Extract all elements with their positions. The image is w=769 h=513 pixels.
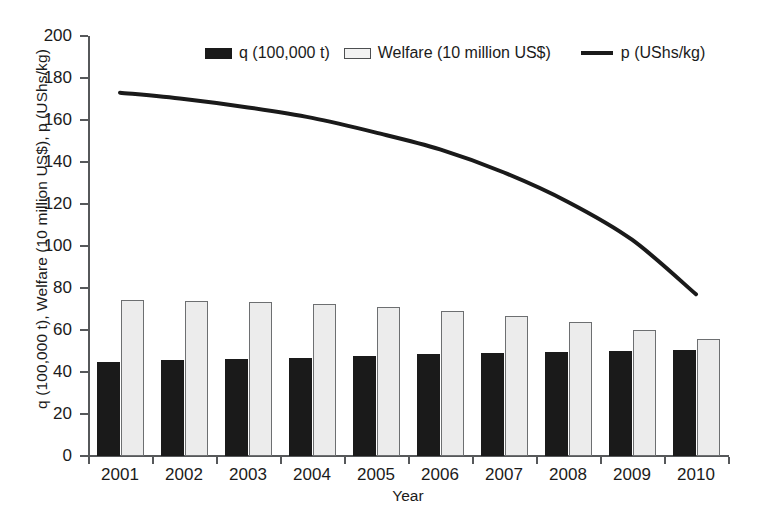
x-axis-tick (472, 457, 474, 464)
y-axis-tick-label: 160 (12, 111, 72, 128)
legend-label-welfare: Welfare (10 million US$) (378, 44, 551, 62)
x-axis-title: Year (88, 487, 728, 505)
x-axis-tick-label: 2004 (280, 466, 344, 483)
y-axis-tick-label: 40 (12, 363, 72, 380)
price-line-path (120, 93, 696, 295)
y-axis-tick-label-wrap: 160 (8, 111, 72, 129)
y-axis-tick-label: 140 (12, 153, 72, 170)
legend-item-welfare: Welfare (10 million US$) (344, 44, 551, 62)
y-axis-tick (80, 119, 88, 121)
y-axis-tick-label-wrap: 0 (8, 447, 72, 465)
x-axis-tick (280, 457, 282, 464)
x-axis-tick-label: 2001 (88, 466, 152, 483)
x-axis-tick-label: 2005 (344, 466, 408, 483)
x-axis-tick (344, 457, 346, 464)
x-axis-tick-label: 2002 (152, 466, 216, 483)
x-axis-tick-label: 2008 (536, 466, 600, 483)
y-axis-tick (80, 203, 88, 205)
x-axis-tick-label: 2010 (664, 466, 728, 483)
legend-label-q: q (100,000 t) (239, 44, 330, 62)
y-axis-tick-label: 20 (12, 405, 72, 422)
y-axis-tick-label: 180 (12, 69, 72, 86)
x-axis-tick (536, 457, 538, 464)
x-axis-tick-label: 2009 (600, 466, 664, 483)
plot-area (88, 36, 728, 456)
chart-figure: q (100,000 t), Welfare (10 million US$),… (0, 0, 769, 513)
y-axis-tick-label-wrap: 20 (8, 405, 72, 423)
x-axis-tick (728, 457, 730, 464)
x-axis-tick (664, 457, 666, 464)
legend-item-q: q (100,000 t) (205, 44, 330, 62)
y-axis-tick (80, 455, 88, 457)
y-axis-tick-label: 100 (12, 237, 72, 254)
y-axis-tick-label-wrap: 120 (8, 195, 72, 213)
y-axis-tick (80, 77, 88, 79)
chart-legend: q (100,000 t) Welfare (10 million US$) p… (205, 44, 705, 62)
x-axis-tick-label: 2006 (408, 466, 472, 483)
y-axis-tick-label-wrap: 140 (8, 153, 72, 171)
y-axis-tick-label-wrap: 200 (8, 27, 72, 45)
y-axis-tick (80, 371, 88, 373)
y-axis-tick (80, 245, 88, 247)
y-axis-tick-label-wrap: 180 (8, 69, 72, 87)
y-axis-tick (80, 413, 88, 415)
legend-label-price: p (UShs/kg) (621, 44, 705, 62)
y-axis-tick-label-wrap: 60 (8, 321, 72, 339)
legend-item-price: p (UShs/kg) (581, 44, 705, 62)
x-axis-tick (216, 457, 218, 464)
y-axis-tick-label: 120 (12, 195, 72, 212)
x-axis-tick-label: 2003 (216, 466, 280, 483)
y-axis-tick (80, 35, 88, 37)
y-axis-tick-label-wrap: 80 (8, 279, 72, 297)
y-axis-tick (80, 161, 88, 163)
bar-light-swatch-icon (344, 48, 371, 59)
y-axis-tick-label: 60 (12, 321, 72, 338)
line-swatch-icon (581, 51, 613, 55)
y-axis-tick (80, 287, 88, 289)
bar-dark-swatch-icon (205, 48, 232, 59)
x-axis-tick (152, 457, 154, 464)
y-axis-tick (80, 329, 88, 331)
y-axis-tick-label: 0 (12, 447, 72, 464)
price-line-series (88, 36, 728, 456)
y-axis-tick-label: 80 (12, 279, 72, 296)
x-axis-tick-label: 2007 (472, 466, 536, 483)
y-axis-tick-label-wrap: 100 (8, 237, 72, 255)
x-axis-tick (408, 457, 410, 464)
x-axis-tick (600, 457, 602, 464)
y-axis-tick-label: 200 (12, 27, 72, 44)
y-axis-tick-label-wrap: 40 (8, 363, 72, 381)
x-axis-tick (88, 457, 90, 464)
